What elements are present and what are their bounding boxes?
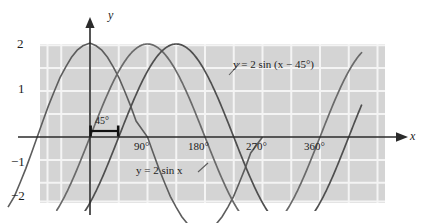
y-tick-label-1: 1 [18,82,25,95]
x-axis-arrowhead [396,132,408,142]
x-tick-label-360: 360° [304,141,325,152]
x-tick-label-180: 180° [188,141,209,152]
curve-label-shifted: y = 2 sin (x − 45°) [233,59,314,70]
x-tick-label-90: 90° [134,141,149,152]
x-axis-label: x [410,130,415,142]
phase-shift-label: 45° [95,116,109,126]
y-tick-label-2: 2 [17,37,24,50]
graph-canvas [0,0,424,223]
y-axis-label: y [108,9,113,21]
y-tick-label-neg1: −1 [11,155,25,168]
curve-label-base: y = 2 sin x [136,165,183,176]
trigonometric-graph-figure: y x 2 1 −1 −2 90° 180° 270° 360° 45° y =… [0,0,424,223]
x-tick-label-270: 270° [246,141,267,152]
y-axis-arrowhead [85,17,94,28]
y-tick-label-neg2: −2 [11,189,25,202]
